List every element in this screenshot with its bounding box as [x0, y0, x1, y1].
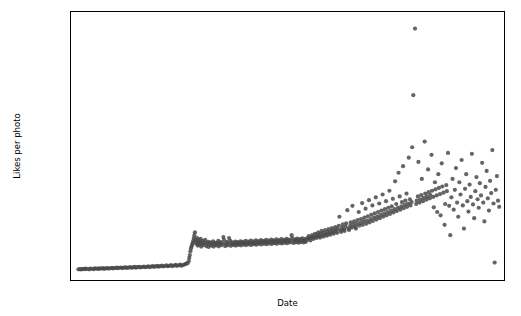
scatter-points-layer [71, 12, 505, 281]
x-tick-mark [159, 280, 160, 281]
x-tick-mark [500, 280, 501, 281]
x-tick-mark [443, 280, 444, 281]
y-tick-label: 0 [70, 267, 71, 276]
y-tick-label: 1000000 [70, 220, 71, 229]
x-tick-mark [387, 280, 388, 281]
y-tick-label: 3000000 [70, 125, 71, 134]
y-tick-label: 5000000 [70, 30, 71, 39]
x-tick-mark [330, 280, 331, 281]
plot-area: 010000002000000300000040000005000000 201… [70, 11, 505, 281]
scatter-chart-figure: 010000002000000300000040000005000000 201… [0, 0, 521, 316]
x-tick-mark [273, 280, 274, 281]
x-tick-mark [102, 280, 103, 281]
y-tick-label: 2000000 [70, 172, 71, 181]
x-axis-label: Date [70, 299, 505, 308]
y-tick-label: 4000000 [70, 78, 71, 87]
x-tick-mark [216, 280, 217, 281]
y-axis-label: Likes per photo [12, 11, 23, 281]
